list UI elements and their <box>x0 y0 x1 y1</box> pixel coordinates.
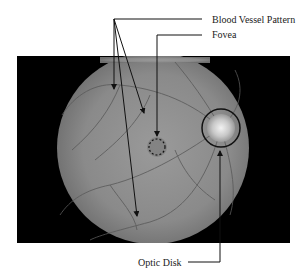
fovea-label: Fovea <box>212 30 236 40</box>
fovea-region <box>147 137 167 157</box>
optic-disk <box>207 114 235 142</box>
blood-vessel-label: Blood Vessel Pattern <box>212 15 295 25</box>
fundus-diagram <box>0 0 306 276</box>
optic-disk-label: Optic Disk <box>138 258 182 268</box>
